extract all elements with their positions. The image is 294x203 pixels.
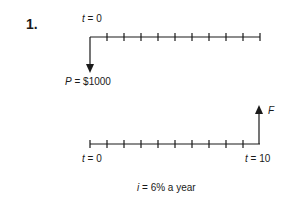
top-timeline (90, 33, 260, 41)
cash-flow-diagram (0, 0, 294, 203)
down-arrowhead-icon (86, 64, 94, 73)
up-arrowhead-icon (255, 105, 263, 114)
bottom-timeline (90, 140, 260, 148)
